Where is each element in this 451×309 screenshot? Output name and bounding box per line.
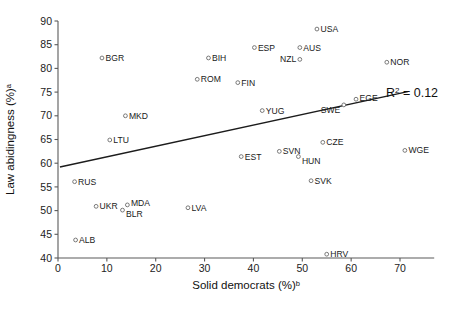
point-marker <box>277 149 281 153</box>
trendline-path <box>60 92 408 167</box>
point-marker <box>298 57 302 61</box>
point-label: MDA <box>131 198 150 208</box>
point-marker <box>74 238 78 242</box>
point-marker <box>239 155 243 159</box>
data-point: FIN <box>236 78 255 88</box>
data-point: HUN <box>296 155 320 166</box>
data-point: SWE <box>321 103 346 115</box>
point-label: WGE <box>408 145 429 155</box>
point-label: CZE <box>326 137 343 147</box>
data-point: BIH <box>207 53 227 63</box>
y-axis-tick-label: 80 <box>40 62 52 74</box>
point-label: EST <box>245 152 262 162</box>
point-label: FIN <box>241 78 255 88</box>
data-point: BGR <box>100 53 124 63</box>
x-axis-title: Solid democrats (%)b <box>192 279 300 292</box>
data-point: LTU <box>108 135 129 145</box>
data-point: SVK <box>309 176 332 186</box>
point-marker <box>385 60 389 64</box>
point-marker <box>253 46 257 50</box>
data-point: CZE <box>321 137 344 147</box>
point-label: BLR <box>126 209 143 219</box>
y-axis-tick-label: 50 <box>40 204 52 216</box>
regression-line <box>60 92 408 167</box>
data-point: ALB <box>74 235 96 245</box>
point-label: SWE <box>321 105 341 115</box>
point-label: NOR <box>390 57 409 67</box>
point-marker <box>298 46 302 50</box>
y-axis-tick-label: 55 <box>40 181 52 193</box>
data-point: BLR <box>121 208 143 219</box>
point-marker <box>354 97 358 101</box>
data-point: AUS <box>298 43 321 53</box>
data-point: UKR <box>94 201 118 211</box>
point-marker <box>321 140 325 144</box>
point-label: BIH <box>212 53 226 63</box>
point-marker <box>260 109 264 113</box>
x-axis-tick-label: 10 <box>101 262 113 274</box>
point-marker <box>108 138 112 142</box>
data-point: ROM <box>195 74 220 84</box>
point-marker <box>207 56 211 60</box>
scatter-plot-figure: 4045505560657075808590010203040506070 US… <box>0 0 451 309</box>
x-axis-tick-label: 30 <box>199 262 211 274</box>
data-point: USA <box>315 24 338 34</box>
point-marker <box>342 103 346 107</box>
y-axis-tick-label: 85 <box>40 38 52 50</box>
data-point: MDA <box>125 198 150 208</box>
point-label: ROM <box>201 74 221 84</box>
point-label: HUN <box>302 156 321 166</box>
point-label: RUS <box>78 177 96 187</box>
y-axis-tick-label: 45 <box>40 228 52 240</box>
data-point: LVA <box>186 203 207 213</box>
point-marker <box>125 203 129 207</box>
point-label: MKD <box>129 111 148 121</box>
data-point: NZL <box>280 54 302 64</box>
point-label: LTU <box>113 135 129 145</box>
point-marker <box>73 180 77 184</box>
plot-canvas: 4045505560657075808590010203040506070 US… <box>0 0 451 309</box>
axes: 4045505560657075808590010203040506070 <box>40 15 434 274</box>
point-marker <box>296 155 300 159</box>
point-label: LVA <box>191 203 206 213</box>
data-point: RUS <box>73 177 97 187</box>
point-label: USA <box>320 24 338 34</box>
point-label: NZL <box>280 54 296 64</box>
point-marker <box>94 204 98 208</box>
y-axis-tick-label: 40 <box>40 252 52 264</box>
data-point: WGE <box>403 145 429 155</box>
y-axis-tick-label: 60 <box>40 157 52 169</box>
point-label: EGE <box>360 93 378 103</box>
point-label: ESP <box>258 43 275 53</box>
y-axis-tick-label: 70 <box>40 109 52 121</box>
x-axis-tick-label: 50 <box>296 262 308 274</box>
point-marker <box>236 81 240 85</box>
y-axis-tick-label: 90 <box>40 15 52 27</box>
x-axis-tick-label: 60 <box>345 262 357 274</box>
data-point: EST <box>239 152 262 162</box>
point-label: SVK <box>315 176 332 186</box>
point-marker <box>195 77 199 81</box>
point-marker <box>325 252 329 256</box>
point-marker <box>124 114 128 118</box>
data-point: ESP <box>253 43 276 53</box>
data-point: MKD <box>124 111 149 121</box>
x-axis-tick-label: 0 <box>55 262 61 274</box>
data-points: USAESPAUSBGRBIHNZLNORROMFINEGESWEYUGMKDL… <box>73 24 429 259</box>
data-point: NOR <box>385 57 410 67</box>
x-axis-tick-label: 20 <box>150 262 162 274</box>
y-axis-tick-label: 65 <box>40 133 52 145</box>
point-marker <box>121 208 125 212</box>
point-marker <box>309 179 313 183</box>
y-axis-title: Law abidingness (%)a <box>4 83 17 195</box>
data-point: EGE <box>354 93 378 103</box>
data-point: YUG <box>260 106 284 116</box>
point-marker <box>100 56 104 60</box>
y-axis-tick-label: 75 <box>40 86 52 98</box>
r-squared-label: R2 = 0.12 <box>386 86 438 101</box>
point-label: AUS <box>303 43 321 53</box>
point-label: UKR <box>100 201 118 211</box>
x-axis-tick-label: 40 <box>248 262 260 274</box>
point-marker <box>186 206 190 210</box>
point-label: YUG <box>266 106 285 116</box>
